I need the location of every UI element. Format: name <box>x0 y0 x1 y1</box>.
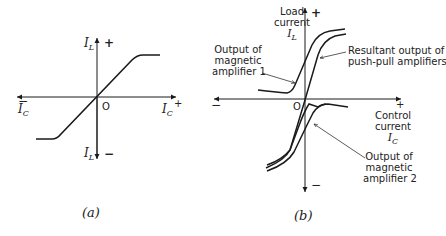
panel-a-x-sign-right: + <box>174 98 182 109</box>
panel-b-caption: (b) <box>294 208 312 223</box>
panel-a-axes <box>17 38 176 159</box>
panel-a-y-sign-bottom: − <box>104 149 114 160</box>
amp1-leader-line <box>262 73 295 83</box>
amp2-leader-line <box>314 124 365 158</box>
panel-b-x-sign-left: − <box>211 100 221 111</box>
resultant-output-curve <box>266 34 346 168</box>
panel-a-x-label-right: IC <box>162 104 173 119</box>
panel-b-y-sign-bottom: − <box>311 180 321 191</box>
panel-b-x-sign-right: + <box>396 99 404 110</box>
amplifier-2-output-curve <box>267 104 348 165</box>
panel-b-y-axis-title: Load current IL <box>272 6 312 43</box>
annotation-amplifier-1: Output of magnetic amplifier 1 <box>212 44 264 77</box>
resultant-leader-line <box>320 52 346 58</box>
panel-b-y-sign-top: + <box>311 8 321 19</box>
panel-a-y-sign-top: + <box>104 38 114 49</box>
panel-a-origin: O <box>102 101 110 112</box>
panel-a-y-label-bottom: IL <box>84 148 94 163</box>
panel-b-x-axis-title: Control current IC <box>368 110 418 147</box>
annotation-resultant: Resultant output of push-pull amplifiers <box>348 45 444 67</box>
panel-a-caption: (a) <box>82 205 100 220</box>
panel-b-origin: O <box>293 101 301 112</box>
annotation-amplifier-2: Output of magnetic amplifier 2 <box>363 151 415 184</box>
panel-a-y-label-top: IL <box>84 38 94 53</box>
panel-a-x-label-left: IC <box>18 104 29 119</box>
